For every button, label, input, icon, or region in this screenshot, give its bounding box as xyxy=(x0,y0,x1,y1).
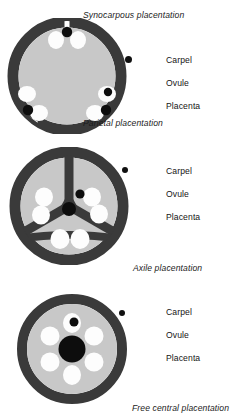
legend-carpel-1: Carpel xyxy=(166,55,192,65)
leader-dot-carpel-3 xyxy=(119,310,125,316)
caption-axile: Axile placentation xyxy=(133,263,202,273)
leader-dot-carpel-1 xyxy=(125,56,132,63)
placenta-central xyxy=(59,336,86,363)
legend-placenta-3: Placenta xyxy=(166,353,200,363)
legend-ovule-1: Ovule xyxy=(166,78,189,88)
placentation-figure: Synocarpous placentation xyxy=(0,0,245,419)
legend-carpel-2: Carpel xyxy=(166,166,192,176)
leader-dot-carpel-2 xyxy=(122,167,128,173)
legend-placenta-2: Placenta xyxy=(166,212,200,222)
placenta-marker xyxy=(70,318,79,327)
free-central-svg xyxy=(14,293,132,405)
legend-carpel-3: Carpel xyxy=(166,307,192,317)
caption-free-central: Free central placentation xyxy=(132,403,229,413)
legend-ovule-3: Ovule xyxy=(166,330,189,340)
axile-svg xyxy=(6,147,134,265)
legend-placenta-1: Placenta xyxy=(166,101,200,111)
parietal-svg xyxy=(6,18,130,134)
placenta-marker xyxy=(75,189,84,198)
diagram-free-central-section xyxy=(14,293,132,405)
caption-parietal: Parietal placentation xyxy=(83,118,163,128)
diagram-axile-section xyxy=(6,147,134,265)
diagram-parietal-section xyxy=(6,18,130,134)
placenta-central xyxy=(62,202,76,216)
legend-ovule-2: Ovule xyxy=(166,189,189,199)
